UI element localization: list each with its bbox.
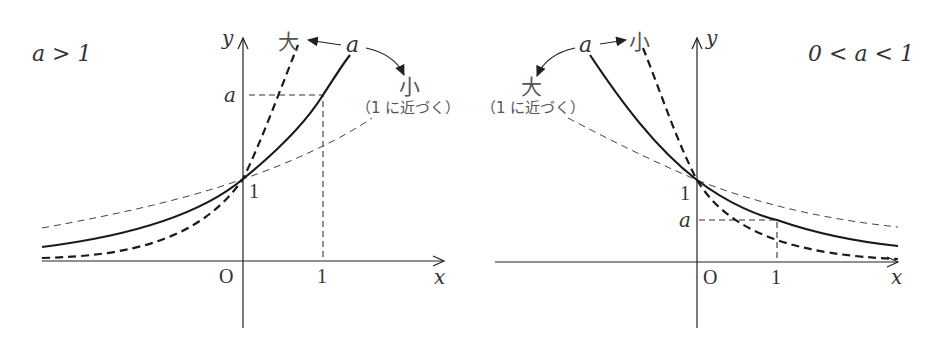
annotation-approach-one: （1 に近づく）	[356, 99, 460, 117]
arrow-to-smaller	[366, 48, 404, 75]
y-axis-label: y	[221, 26, 234, 50]
origin-label: O	[219, 265, 233, 287]
curve-main	[42, 55, 350, 247]
exponential-graphs-figure: a > 1 a 1 1 O x y a 大 小 （1 に近づく） 0 < a <…	[0, 0, 934, 340]
origin-label: O	[703, 266, 717, 288]
arrow-to-larger	[537, 48, 575, 76]
guide-lines-a	[699, 220, 777, 262]
curve-large-a	[42, 45, 298, 258]
annotation-larger: 大	[521, 75, 542, 99]
x-axis-label: x	[434, 265, 445, 289]
y-axis-label: y	[705, 26, 718, 50]
arrow-to-larger	[308, 40, 341, 45]
annotation-approach-one: （1 に近づく）	[481, 99, 585, 117]
annotation-a: a	[579, 32, 592, 57]
curve-main	[590, 55, 898, 246]
x-axis-label: x	[891, 265, 902, 289]
y-tick-one: 1	[249, 180, 259, 202]
annotation-a: a	[346, 32, 359, 57]
y-tick-a: a	[224, 83, 236, 107]
right-panel: 0 < a < 1 a 1 1 O x y a 小 大 （1 に近づく）	[481, 26, 914, 328]
guide-lines-a	[249, 95, 323, 261]
annotation-larger: 大	[278, 30, 299, 54]
annotation-smaller: 小	[399, 75, 420, 99]
condition-label: a > 1	[32, 41, 92, 66]
left-panel: a > 1 a 1 1 O x y a 大 小 （1 に近づく）	[32, 26, 460, 328]
annotation-smaller: 小	[629, 30, 650, 54]
curve-a-near-1	[568, 118, 898, 227]
y-tick-a: a	[679, 208, 691, 232]
x-tick-one: 1	[771, 266, 781, 288]
x-tick-one: 1	[317, 265, 327, 287]
arrow-to-smaller	[600, 40, 626, 44]
condition-label: 0 < a < 1	[808, 41, 914, 66]
y-tick-one: 1	[680, 182, 690, 204]
